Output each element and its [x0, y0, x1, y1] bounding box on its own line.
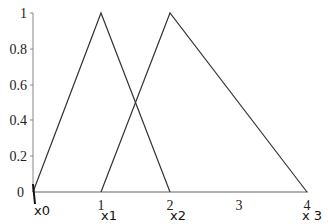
- annotation-x1: x1: [101, 208, 117, 223]
- series-triangle-2: [101, 13, 307, 192]
- y-tick-0.2: 0.2: [10, 149, 28, 164]
- annotation-x3: x 3: [302, 208, 322, 223]
- y-tick-0.4: 0.4: [10, 113, 28, 128]
- series-triangle-1: [33, 13, 170, 192]
- annotation-x0: x0: [34, 203, 50, 218]
- y-tick-1: 1: [20, 6, 27, 21]
- x-tick-3: 3: [236, 198, 243, 213]
- chart: 1 0.8 0.6 0.4 0.2 0 1 2 3 4 x0 x1 x2 x 3: [0, 0, 328, 224]
- annotation-x2: x2: [170, 208, 186, 223]
- y-tick-0: 0: [17, 185, 24, 200]
- y-tick-0.6: 0.6: [10, 78, 28, 93]
- y-tick-0.8: 0.8: [10, 42, 28, 57]
